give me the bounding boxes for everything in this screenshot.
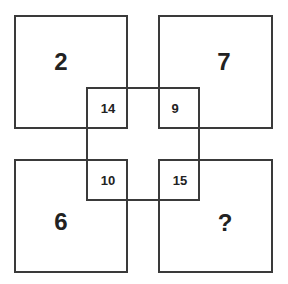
value-bottom-left: 6 bbox=[54, 210, 67, 234]
value-top-right: 7 bbox=[217, 50, 230, 74]
value-top-left: 2 bbox=[54, 50, 67, 74]
overlap-bottom-right: 15 bbox=[173, 174, 187, 187]
overlap-top-left: 14 bbox=[101, 102, 115, 115]
overlap-bottom-left: 10 bbox=[101, 174, 115, 187]
overlap-top-right: 9 bbox=[171, 102, 178, 115]
value-bottom-right-unknown: ? bbox=[218, 211, 233, 235]
